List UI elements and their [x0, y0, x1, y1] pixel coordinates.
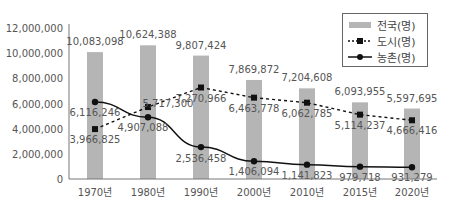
rural-value-label: 979,718: [339, 172, 380, 183]
legend-item-city: 도시(명): [347, 33, 416, 49]
bar: [140, 45, 156, 179]
y-axis: 02,000,0004,000,0006,000,0008,000,00010,…: [6, 23, 69, 185]
legend-item-rural: 농촌(명): [347, 49, 416, 65]
city-marker: [251, 95, 257, 101]
rural-value-label: 1,406,094: [229, 166, 280, 177]
x-tick-label: 1990년: [184, 187, 218, 198]
city-value-label: 7,270,966: [176, 93, 227, 104]
legend-label: 전국(명): [377, 17, 416, 33]
x-tick-label: 2020년: [395, 187, 429, 198]
bar-value-label: 7,204,608: [282, 72, 333, 83]
rural-marker: [251, 158, 257, 164]
x-axis: 1970년1980년1990년2000년2010년2015년2020년: [69, 179, 437, 198]
rural-value-label: 6,116,246: [70, 107, 121, 118]
legend-label: 도시(명): [377, 33, 416, 49]
rural-value-label: 931,279: [391, 172, 432, 183]
x-tick-label: 1970년: [78, 187, 112, 198]
y-tick-label: 4,000,000: [12, 124, 63, 135]
bar-swatch-icon: [347, 20, 373, 30]
city-value-label: 3,966,825: [70, 134, 121, 145]
x-tick-label: 2015년: [343, 187, 377, 198]
y-tick-label: 8,000,000: [12, 73, 63, 84]
bar-value-label: 6,093,955: [335, 86, 386, 97]
y-tick-label: 6,000,000: [12, 99, 63, 110]
bar-value-label: 5,597,695: [387, 93, 438, 104]
city-value-label: 6,463,778: [229, 103, 280, 114]
y-tick-label: 12,000,000: [6, 23, 63, 34]
bar-value-label: 7,869,872: [229, 64, 280, 75]
x-tick-label: 1980년: [131, 187, 165, 198]
rural-marker: [198, 144, 204, 150]
bar-value-label: 10,624,388: [119, 29, 176, 40]
x-tick-label: 2000년: [237, 187, 271, 198]
dashed-square-marker-icon: [347, 36, 373, 46]
solid-circle-marker-icon: [347, 52, 373, 62]
legend-item-national: 전국(명): [347, 17, 416, 33]
city-marker: [304, 100, 310, 106]
rural-value-label: 4,907,088: [118, 122, 169, 133]
city-value-label: 4,666,416: [387, 125, 438, 136]
legend: 전국(명) 도시(명) 농촌(명): [342, 13, 428, 67]
city-value-label: 6,062,785: [282, 108, 333, 119]
legend-label: 농촌(명): [377, 49, 416, 65]
rural-marker: [357, 163, 363, 169]
city-marker: [198, 85, 204, 91]
rural-value-label: 2,536,458: [176, 153, 227, 164]
y-tick-label: 2,000,000: [12, 149, 63, 160]
x-tick-label: 2010년: [290, 187, 324, 198]
bar-value-label: 10,083,098: [66, 36, 123, 47]
rural-marker: [145, 114, 151, 120]
y-tick-label: 0: [57, 174, 63, 185]
city-marker: [409, 117, 415, 123]
city-marker: [357, 112, 363, 118]
city-value-label: 5,114,237: [335, 120, 386, 131]
rural-marker: [409, 164, 415, 170]
rural-marker: [92, 99, 98, 105]
bar-value-label: 9,807,424: [176, 40, 227, 51]
city-marker: [92, 126, 98, 132]
y-tick-label: 10,000,000: [6, 48, 63, 59]
rural-marker: [304, 161, 310, 167]
